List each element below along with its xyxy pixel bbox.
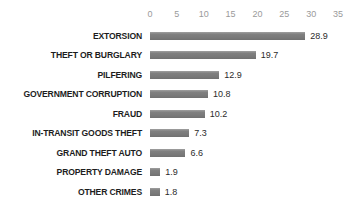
bar-row: EXTORSION28.9 (0, 26, 358, 46)
bar-container: 28.9 (150, 26, 328, 46)
x-axis-tick-25: 25 (279, 9, 289, 19)
category-label: OTHER CRIMES (0, 187, 142, 197)
bar-value-label: 7.3 (194, 128, 207, 138)
bar-row: PILFERING12.9 (0, 65, 358, 85)
bar-value-label: 10.2 (210, 109, 228, 119)
bar-value-label: 1.9 (165, 167, 178, 177)
bar (150, 188, 160, 196)
x-axis-tick-0: 0 (147, 9, 152, 19)
bar-row: THEFT OR BURGLARY19.7 (0, 46, 358, 66)
x-axis-tick-10: 10 (199, 9, 209, 19)
bar (150, 129, 189, 137)
bar-rows: EXTORSION28.9THEFT OR BURGLARY19.7PILFER… (0, 26, 358, 202)
x-axis-tick-35: 35 (333, 9, 343, 19)
bar (150, 90, 208, 98)
bar (150, 71, 219, 79)
bar-container: 1.8 (150, 182, 177, 202)
category-label: IN-TRANSIT GOODS THEFT (0, 128, 142, 138)
bar-value-label: 19.7 (261, 50, 279, 60)
category-label: GRAND THEFT AUTO (0, 148, 142, 158)
x-axis-tick-5: 5 (174, 9, 179, 19)
x-axis-tick-15: 15 (226, 9, 236, 19)
category-label: EXTORSION (0, 31, 142, 41)
bar-container: 19.7 (150, 46, 278, 66)
bar-row: OTHER CRIMES1.8 (0, 182, 358, 202)
bar-value-label: 12.9 (224, 70, 242, 80)
bar (150, 51, 256, 59)
x-axis-tick-20: 20 (252, 9, 262, 19)
bar-value-label: 28.9 (310, 31, 328, 41)
x-axis-tick-30: 30 (306, 9, 316, 19)
bar (150, 168, 160, 176)
bar (150, 110, 205, 118)
bar (150, 32, 305, 40)
category-label: FRAUD (0, 109, 142, 119)
category-label: THEFT OR BURGLARY (0, 50, 142, 60)
bar-row: PROPERTY DAMAGE1.9 (0, 163, 358, 183)
bar-value-label: 6.6 (190, 148, 203, 158)
category-label: PILFERING (0, 70, 142, 80)
bar-container: 7.3 (150, 124, 207, 144)
bar-row: GOVERNMENT CORRUPTION10.8 (0, 85, 358, 105)
bar-container: 1.9 (150, 163, 178, 183)
horizontal-bar-chart: 05101520253035 EXTORSION28.9THEFT OR BUR… (0, 0, 358, 205)
bar-value-label: 1.8 (165, 187, 178, 197)
bar (150, 149, 185, 157)
bar-container: 10.8 (150, 85, 231, 105)
bar-row: GRAND THEFT AUTO6.6 (0, 143, 358, 163)
bar-container: 6.6 (150, 143, 203, 163)
x-axis: 05101520253035 (150, 9, 338, 23)
bar-container: 12.9 (150, 65, 242, 85)
category-label: PROPERTY DAMAGE (0, 167, 142, 177)
bar-row: FRAUD10.2 (0, 104, 358, 124)
bar-value-label: 10.8 (213, 89, 231, 99)
bar-row: IN-TRANSIT GOODS THEFT7.3 (0, 124, 358, 144)
bar-container: 10.2 (150, 104, 227, 124)
category-label: GOVERNMENT CORRUPTION (0, 89, 142, 99)
